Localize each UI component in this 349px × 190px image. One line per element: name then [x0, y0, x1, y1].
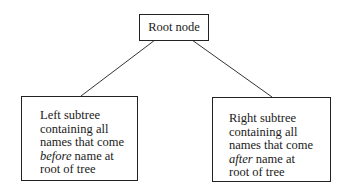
left-emph-word: before — [40, 149, 71, 163]
right-subtree-line-2: containing all — [229, 126, 330, 140]
right-subtree-line-4: after name at — [229, 153, 330, 167]
right-emph-word: after — [229, 152, 253, 166]
edge-root-left — [81, 40, 155, 96]
left-subtree-line-3: names that come — [40, 136, 137, 150]
right-subtree-line-1: Right subtree — [229, 112, 330, 126]
right-subtree-line-3: names that come — [229, 139, 330, 153]
edge-root-right — [192, 40, 272, 97]
left-subtree-line-4: before name at — [40, 150, 137, 164]
left-subtree-line-2: containing all — [40, 123, 137, 137]
left-line-4-rest: name at — [71, 149, 113, 163]
root-node: Root node — [139, 14, 209, 41]
left-subtree-line-5: root of tree — [40, 163, 137, 177]
left-subtree-line-1: Left subtree — [40, 109, 137, 123]
left-subtree-node: Left subtree containing all names that c… — [21, 96, 138, 181]
right-subtree-node: Right subtree containing all names that … — [212, 97, 331, 182]
right-subtree-line-5: root of tree — [229, 166, 330, 180]
root-node-label: Root node — [148, 20, 200, 35]
right-line-4-rest: name at — [253, 152, 295, 166]
